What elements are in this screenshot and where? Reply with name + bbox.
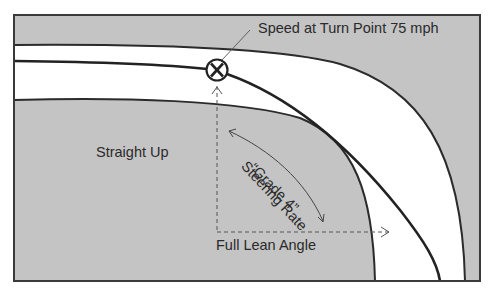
full-lean-angle-label: Full Lean Angle bbox=[216, 237, 316, 253]
turn-point-marker bbox=[207, 60, 228, 81]
turn-point-speed-label: Speed at Turn Point 75 mph bbox=[258, 20, 439, 36]
straight-up-label: Straight Up bbox=[96, 144, 169, 160]
